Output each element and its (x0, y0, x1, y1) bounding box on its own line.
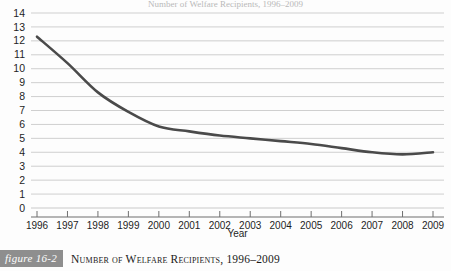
x-axis-tick-label: 1999 (117, 220, 140, 231)
x-axis-tick-marks (37, 211, 433, 217)
figure-number-badge: figure 16-2 (0, 250, 63, 267)
y-axis-tick-label: 1 (19, 188, 25, 200)
x-axis-tick-label: 2009 (422, 220, 445, 231)
cutoff-title: Number of Welfare Recipients, 1996–2009 (0, 0, 451, 9)
y-axis-tick-label: 6 (19, 118, 25, 130)
figure-container: Number of Welfare Recipients, 1996–2009 … (0, 0, 451, 271)
x-axis-tick-label: 2005 (300, 220, 323, 231)
y-axis-tick-label: 3 (19, 160, 25, 172)
grid-lines (31, 13, 444, 208)
y-axis-tick-label: 12 (13, 34, 25, 46)
x-axis-tick-label: 1997 (56, 220, 79, 231)
chart-plot-area: 01234567891011121314 1996199719981999200… (0, 9, 451, 241)
x-axis-tick-label: 2004 (270, 220, 293, 231)
x-axis-title: Year (227, 228, 248, 239)
y-axis-tick-label: 9 (19, 76, 25, 88)
x-axis-tick-label: 1998 (87, 220, 110, 231)
x-axis-tick-label: 1996 (26, 220, 49, 231)
y-axis-tick-label: 4 (19, 146, 25, 158)
y-axis-tick-labels: 01234567891011121314 (13, 9, 25, 214)
figure-caption-text: Number of Welfare Recipients, 1996–2009 (71, 253, 280, 265)
x-axis-tick-label: 2001 (178, 220, 201, 231)
figure-caption-bar: figure 16-2 Number of Welfare Recipients… (0, 250, 451, 267)
y-axis-tick-label: 10 (13, 62, 25, 74)
x-axis-tick-label: 2000 (148, 220, 171, 231)
y-axis-tick-label: 14 (13, 9, 25, 19)
data-series-line (37, 37, 433, 155)
y-axis-tick-label: 7 (19, 104, 25, 116)
x-axis-tick-label: 2006 (330, 220, 353, 231)
y-axis-tick-label: 0 (19, 202, 25, 214)
y-axis-tick-label: 5 (19, 132, 25, 144)
line-chart: 01234567891011121314 1996199719981999200… (0, 9, 451, 241)
y-axis-tick-label: 2 (19, 174, 25, 186)
y-axis-tick-label: 11 (14, 48, 25, 60)
y-axis-tick-label: 13 (13, 21, 25, 33)
x-axis-tick-label: 2007 (361, 220, 384, 231)
x-axis-tick-label: 2008 (391, 220, 414, 231)
y-axis-tick-label: 8 (19, 90, 25, 102)
